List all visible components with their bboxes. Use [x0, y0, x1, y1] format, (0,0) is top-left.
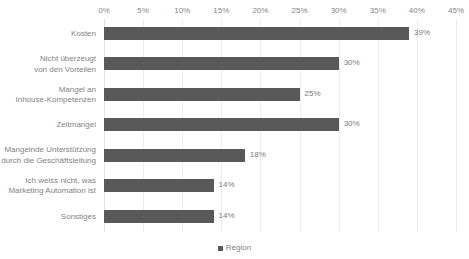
bar-value-label: 14%	[219, 178, 235, 192]
x-axis: 0%5%10%15%20%25%30%35%40%45%	[0, 5, 469, 19]
chart-legend: Region	[0, 241, 469, 255]
x-tick-label: 30%	[319, 5, 359, 16]
category-label: Zeitmangel	[0, 120, 100, 131]
bar-row: 30%	[104, 49, 456, 79]
x-tick-label: 40%	[397, 5, 437, 16]
bar-value-label: 25%	[305, 87, 321, 101]
category-label: Mangelnde Unterstützung durch die Geschä…	[0, 145, 100, 166]
category-label: Kosten	[0, 29, 100, 40]
category-label: Ich weiss nicht, was Marketing Automatio…	[0, 176, 100, 197]
bar-value-label: 18%	[250, 148, 266, 162]
bar-value-label: 30%	[344, 56, 360, 70]
bar-row: 39%	[104, 19, 456, 49]
plot-area: 39%30%25%30%18%14%14%	[104, 19, 456, 232]
gridline	[456, 19, 457, 232]
x-tick-label: 15%	[201, 5, 241, 16]
legend-item[interactable]: Region	[218, 243, 251, 253]
bar	[104, 57, 339, 70]
bar-value-label: 39%	[414, 26, 430, 40]
bar-series-region: 39%30%25%30%18%14%14%	[104, 19, 456, 232]
legend-label: Region	[226, 243, 251, 253]
bar-row: 25%	[104, 80, 456, 110]
bar	[104, 88, 300, 101]
bar-row: 30%	[104, 110, 456, 140]
bar-value-label: 30%	[344, 117, 360, 131]
x-tick-label: 10%	[162, 5, 202, 16]
y-axis-category-labels: KostenNicht überzeugt von den VorteilenM…	[0, 19, 100, 232]
bar-value-label: 14%	[219, 209, 235, 223]
x-tick-label: 20%	[240, 5, 280, 16]
category-label: Sonstiges	[0, 212, 100, 223]
x-tick-label: 25%	[280, 5, 320, 16]
x-tick-label: 5%	[123, 5, 163, 16]
bar	[104, 118, 339, 131]
bar	[104, 179, 214, 192]
bar-row: 18%	[104, 141, 456, 171]
square-marker-icon	[218, 246, 223, 251]
x-tick-label: 0%	[84, 5, 124, 16]
x-tick-label: 45%	[436, 5, 469, 16]
bar	[104, 149, 245, 162]
bar-row: 14%	[104, 202, 456, 232]
bar-chart: 0%5%10%15%20%25%30%35%40%45% 39%30%25%30…	[0, 0, 469, 259]
category-label: Mangel an Inhouse-Kompetenzen	[0, 85, 100, 106]
bar	[104, 27, 409, 40]
bar-row: 14%	[104, 171, 456, 201]
category-label: Nicht überzeugt von den Vorteilen	[0, 54, 100, 75]
bar	[104, 210, 214, 223]
x-tick-label: 35%	[358, 5, 398, 16]
